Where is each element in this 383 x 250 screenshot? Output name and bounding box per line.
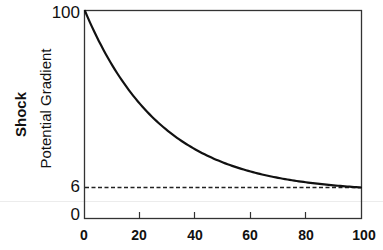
x-axis-ticks (140, 212, 306, 218)
decay-curve (85, 11, 361, 188)
plot-area (0, 0, 383, 250)
